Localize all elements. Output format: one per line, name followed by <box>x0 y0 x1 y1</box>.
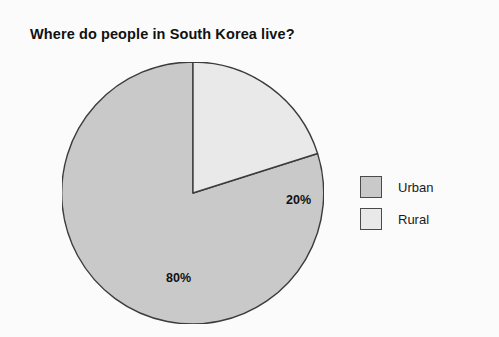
pie-plot-area: 20% 80% <box>62 62 324 324</box>
legend-label-urban: Urban <box>398 180 433 195</box>
pie-chart-figure: Where do people in South Korea live? 20%… <box>0 0 499 337</box>
legend-swatch-rural-icon <box>360 208 382 230</box>
legend-item-rural[interactable]: Rural <box>360 203 480 235</box>
legend-label-rural: Rural <box>398 212 429 227</box>
pie-svg <box>62 62 324 324</box>
pie-label-urban: 80% <box>166 271 191 285</box>
chart-legend: Urban Rural <box>360 171 480 235</box>
legend-item-urban[interactable]: Urban <box>360 171 480 203</box>
legend-swatch-urban-icon <box>360 176 382 198</box>
pie-label-rural: 20% <box>286 193 311 207</box>
chart-title: Where do people in South Korea live? <box>30 26 295 42</box>
